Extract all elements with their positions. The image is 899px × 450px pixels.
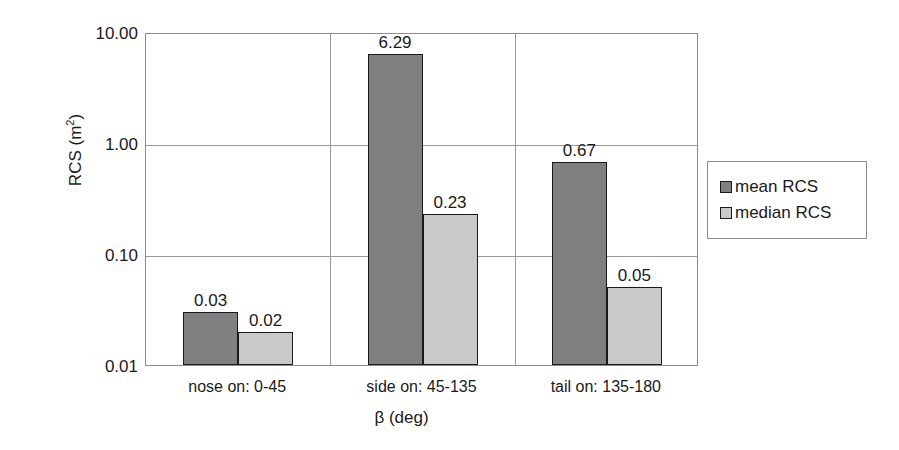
y-axis-tick-label: 10.00 (60, 25, 138, 42)
legend-item-median-rcs[interactable]: median RCS (720, 200, 856, 226)
bar-value-label: 6.29 (368, 34, 423, 51)
category-separator-line (515, 34, 516, 365)
plot-area: 0.036.290.670.020.230.05 (145, 33, 698, 366)
legend-item-mean-rcs[interactable]: mean RCS (720, 174, 856, 200)
bar-value-label: 0.05 (607, 267, 662, 284)
bar-median-0[interactable] (238, 332, 293, 365)
legend-item-label: median RCS (735, 203, 831, 223)
bar-value-label: 0.03 (183, 292, 238, 309)
x-axis-title: β (deg) (0, 408, 899, 428)
x-axis-category-label: tail on: 135-180 (514, 378, 698, 396)
bar-value-label: 0.02 (238, 312, 293, 329)
bar-mean-2[interactable] (552, 162, 607, 365)
y-axis-tick-labels: 10.001.000.100.01 (52, 0, 138, 450)
legend-swatch-icon (720, 181, 732, 193)
x-axis-category-label: nose on: 0-45 (145, 378, 329, 396)
y-axis-tick-label: 1.00 (60, 136, 138, 153)
y-axis-tick-label: 0.01 (60, 358, 138, 375)
category-separator-line (330, 34, 331, 365)
bar-value-label: 0.67 (552, 142, 607, 159)
x-axis-category-label: side on: 45-135 (329, 378, 513, 396)
chart-page: RCS (m2) 10.001.000.100.01 0.036.290.670… (0, 0, 899, 450)
bar-median-1[interactable] (423, 214, 478, 365)
bar-value-label: 0.23 (423, 194, 478, 211)
bar-median-2[interactable] (607, 287, 662, 365)
bar-mean-1[interactable] (368, 54, 423, 365)
y-axis-tick-label: 0.10 (60, 247, 138, 264)
chart-legend: mean RCSmedian RCS (707, 161, 867, 239)
legend-item-label: mean RCS (735, 177, 818, 197)
legend-swatch-icon (720, 207, 732, 219)
bar-mean-0[interactable] (183, 312, 238, 365)
x-axis-title-text: β (deg) (374, 408, 428, 427)
